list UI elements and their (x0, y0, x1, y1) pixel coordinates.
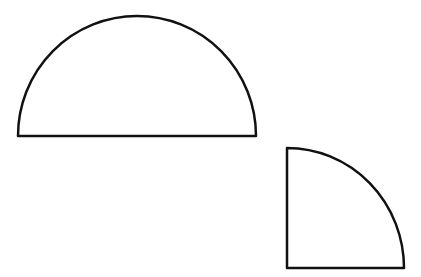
semicircle-shape (18, 16, 256, 136)
shapes-figure (0, 0, 421, 277)
quarter-circle-shape (287, 148, 404, 268)
